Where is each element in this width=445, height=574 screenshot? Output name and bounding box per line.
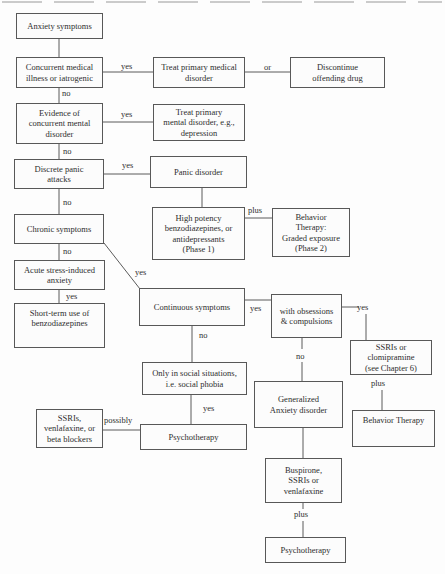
node-label: Anxiety symptoms [26,21,92,31]
node-label: Treat primary mental disorder, e.g., dep… [162,107,235,138]
node-label: Discontinue offending drug [311,62,364,83]
node-high-potency: High potency benzodiazepines, or antidep… [152,207,245,260]
node-label: Concurrent medical illness or iatrogenic [25,62,94,83]
edge-label-buspirone-plus: plus [294,510,308,519]
edge-label-chronic-yes: yes [135,268,146,277]
node-buspirone: Buspirone, SSRIs or venlafaxine [265,458,342,503]
node-label: Psychotherapy [279,545,331,555]
edge-chronic-to-continuous [104,243,140,289]
node-behavior-graded: Behavior Therapy: Graded exposure (Phase… [272,208,350,257]
node-evidence-mental: Evidence of concurrent mental disorder [16,103,103,144]
node-label: with obsessions & compulsions [279,306,335,327]
edge-label-discrete-yes: yes [122,161,133,170]
node-label: Behavior Therapy [362,415,425,425]
node-short-term-benzo: Short-term use of benzodiazepines [14,303,105,348]
node-generalized-anxiety: Generalized Anxiety disorder [254,381,343,428]
edge-label-obsessions-no: no [296,352,305,361]
node-label: Treat primary medical disorder [160,62,238,83]
node-label: Continuous symptoms [153,302,231,312]
node-label: High potency benzodiazepines, or antidep… [164,213,234,254]
edge-label-discrete-no: no [63,198,72,207]
node-with-obsessions: with obsessions & compulsions [271,294,342,338]
edge-label-concurrent-yes: yes [121,62,132,71]
edge-label-evidence-no: no [63,147,72,156]
node-behavior-therapy: Behavior Therapy [352,410,435,447]
node-label: Generalized Anxiety disorder [269,394,328,415]
node-label: Discrete panic attacks [34,164,85,185]
node-label: Behavior Therapy: Graded exposure (Phase… [281,212,341,253]
node-treat-medical: Treat primary medical disorder [153,57,245,88]
flowchart-canvas: Anxiety symptoms Concurrent medical illn… [0,0,445,574]
edge-label-social-yes: yes [203,404,214,413]
node-ssris-venlafaxine: SSRIs, venlafaxine, or beta blockers [36,409,103,448]
edge-label-treat-or: or [264,63,271,72]
node-treat-mental: Treat primary mental disorder, e.g., dep… [153,104,245,141]
node-acute-stress: Acute stress-induced anxiety [14,260,105,290]
node-chronic-symptoms: Chronic symptoms [14,214,104,244]
node-label: Buspirone, SSRIs or venlafaxine [283,465,325,496]
node-only-social: Only in social situations, i.e. social p… [142,362,247,395]
node-panic-disorder: Panic disorder [150,156,247,188]
edge-label-chronic-no: no [63,247,72,256]
node-label: Acute stress-induced anxiety [23,265,96,286]
edge-label-clomipramine-plus: plus [371,379,385,388]
edge-label-acute-yes: yes [66,292,77,301]
node-label: Chronic symptoms [26,224,92,234]
node-concurrent-medical: Concurrent medical illness or iatrogenic [16,57,103,88]
node-discontinue-drug: Discontinue offending drug [290,57,385,88]
node-label: Psychotherapy [167,432,219,442]
node-label: Short-term use of benzodiazepines [29,308,91,329]
edge-label-phase-plus: plus [248,206,262,215]
node-label: SSRIs or clomipramine (see Chapter 6) [364,342,418,373]
edge-label-continuous-yes: yes [250,304,261,313]
node-label: SSRIs, venlafaxine, or beta blockers [43,413,96,444]
node-label: Panic disorder [173,167,224,177]
node-psychotherapy-mid: Psychotherapy [140,424,247,450]
edge-label-concurrent-no: no [62,89,71,98]
node-label: Only in social situations, i.e. social p… [151,368,238,389]
node-psychotherapy-bottom: Psychotherapy [265,537,346,563]
node-ssris-clomipramine: SSRIs or clomipramine (see Chapter 6) [350,340,432,375]
node-discrete-panic: Discrete panic attacks [14,159,104,189]
edge-label-possibly: possibly [104,416,132,425]
edge-label-evidence-yes: yes [121,110,132,119]
node-anxiety-symptoms: Anxiety symptoms [16,13,103,39]
node-continuous-symptoms: Continuous symptoms [139,288,245,326]
edge-label-obsessions-yes: yes [357,303,368,312]
node-label: Evidence of concurrent mental disorder [28,108,92,139]
edge-label-continuous-no: no [199,331,208,340]
